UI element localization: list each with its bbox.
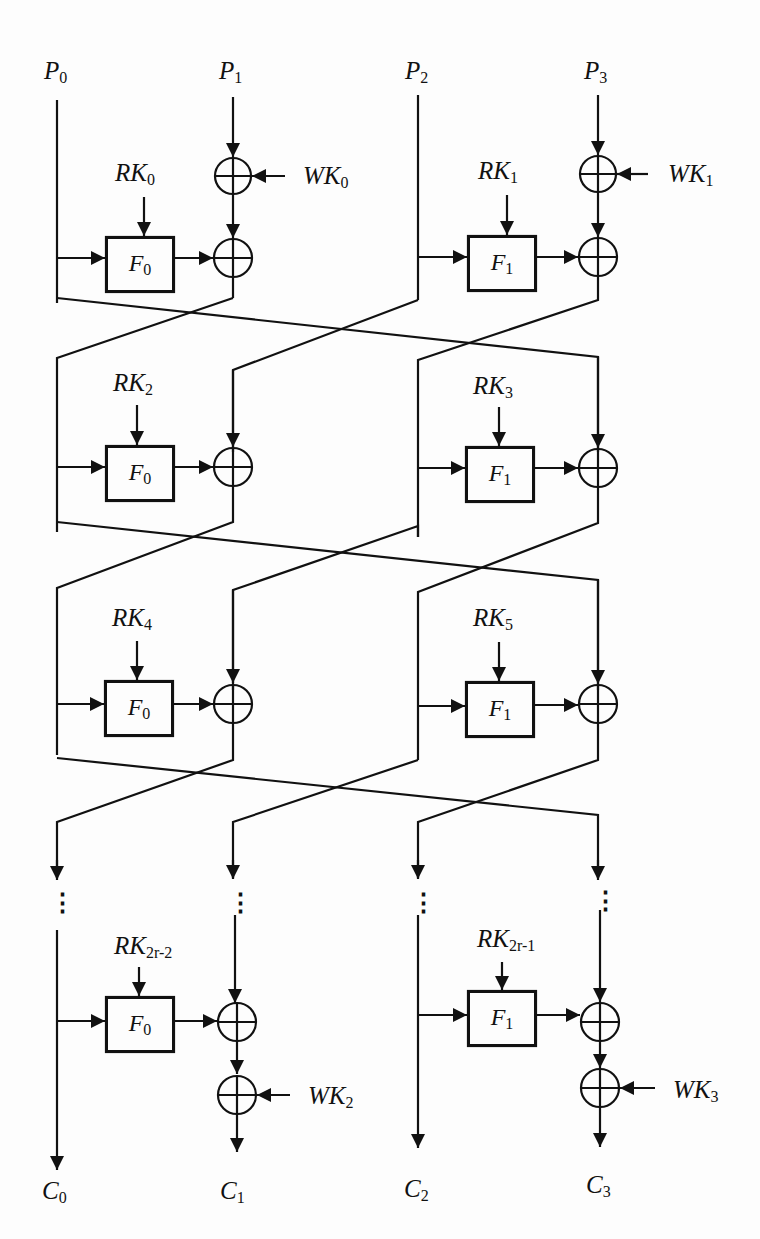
f1-box-r2: F1 xyxy=(466,447,534,502)
output-c3: C3 xyxy=(586,1172,611,1200)
input-p0: P0 xyxy=(44,58,67,86)
f1-box-r1: F1 xyxy=(468,236,536,291)
rk5-label: RK5 xyxy=(473,605,513,633)
f0-box-r1: F0 xyxy=(106,237,174,292)
output-c1: C1 xyxy=(220,1178,245,1206)
ellipsis-2: ⋮ xyxy=(411,890,436,915)
rk2r-1-label: RK2r-1 xyxy=(477,926,535,954)
rk2r-2-label: RK2r-2 xyxy=(114,933,172,961)
wk3-label: WK3 xyxy=(673,1077,719,1105)
input-p1: P1 xyxy=(219,58,242,86)
f0-box-r2: F0 xyxy=(106,446,174,501)
ellipsis-0: ⋮ xyxy=(50,890,75,915)
input-p3: P3 xyxy=(584,58,607,86)
wk2-label: WK2 xyxy=(308,1083,354,1111)
ellipsis-3: ⋮ xyxy=(593,888,618,913)
f0-box-final: F0 xyxy=(106,997,174,1052)
f1-box-final: F1 xyxy=(468,991,536,1046)
output-c2: C2 xyxy=(404,1176,429,1204)
wk1-label: WK1 xyxy=(668,161,714,189)
rk2-label: RK2 xyxy=(113,370,153,398)
wk0-label: WK0 xyxy=(303,163,349,191)
rk4-label: RK4 xyxy=(112,605,152,633)
rk3-label: RK3 xyxy=(473,373,513,401)
output-c0: C0 xyxy=(42,1178,67,1206)
f1-box-r3: F1 xyxy=(466,682,534,737)
input-p2: P2 xyxy=(405,58,428,86)
rk1-label: RK1 xyxy=(478,158,518,186)
f0-box-r3: F0 xyxy=(105,681,173,736)
ellipsis-1: ⋮ xyxy=(228,890,253,915)
rk0-label: RK0 xyxy=(115,160,155,188)
